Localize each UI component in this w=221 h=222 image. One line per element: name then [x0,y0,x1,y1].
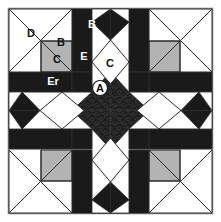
quilt-block-svg: D B B C E A C Er A [0,0,221,222]
piece-e-right-upper-wedge [149,72,212,92]
piece-corner-join-bottom-right [129,129,149,149]
piece-corner-join-top-right [129,72,149,92]
quilt-block-figure: D B B C E A C Er A [0,0,221,222]
a-center-badge [93,81,108,96]
quilt-pieces [9,9,212,213]
piece-e-right-lower-wedge [149,129,212,149]
piece-corner-join-bottom-left [72,129,92,149]
piece-corner-join-top-left [72,72,92,92]
piece-er-left-upper-wedge [9,72,72,92]
piece-er-left-lower-wedge [9,129,72,149]
